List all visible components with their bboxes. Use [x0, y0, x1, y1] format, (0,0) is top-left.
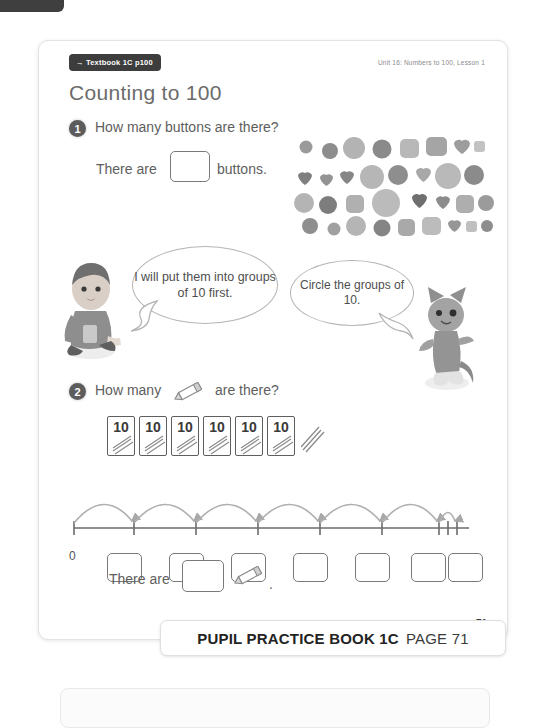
ten-card-label: 10 [268, 419, 294, 435]
bundle-pencils-icon [271, 435, 294, 455]
number-line-answer-box[interactable] [293, 553, 328, 582]
boy-speech-tail [127, 299, 161, 333]
pencil-icon [231, 563, 269, 587]
ten-card: 10 [171, 416, 199, 456]
cat-speech-text: Circle the groups of 10. [291, 278, 413, 309]
number-line-start-label: 0 [69, 549, 76, 563]
question-1-number: 1 [69, 120, 86, 137]
number-line-answer-box[interactable] [355, 553, 390, 582]
cat-speech-tail [375, 309, 415, 343]
bottom-banner: PUPIL PRACTICE BOOK 1C PAGE 71 [160, 620, 506, 656]
ten-card-label: 10 [140, 419, 166, 435]
number-line-svg [69, 481, 489, 541]
buttons-illustration [294, 133, 494, 238]
question-1-answer-prefix: There are [96, 161, 157, 177]
number-line [69, 481, 489, 541]
corner-tab-decoration [0, 0, 64, 12]
pencil-icon [171, 380, 209, 402]
question-2-prompt-before: How many [95, 382, 161, 398]
number-line-answer-box[interactable] [448, 553, 483, 582]
question-2-number: 2 [69, 383, 86, 400]
ten-card: 10 [267, 416, 295, 456]
page-title: Counting to 100 [69, 81, 222, 105]
number-line-answer-box[interactable] [411, 553, 446, 582]
banner-book-title: PUPIL PRACTICE BOOK 1C [197, 630, 399, 647]
cat-character-icon [411, 283, 481, 393]
cat-character [411, 283, 481, 397]
next-slide-preview [60, 688, 490, 728]
bundle-pencils-icon [175, 435, 198, 455]
slide-page: → Textbook 1C p100 Unit 16: Numbers to 1… [38, 40, 508, 640]
ten-card-label: 10 [236, 419, 262, 435]
question-1-answer-suffix: buttons. [217, 161, 267, 177]
loose-pencils-icon [301, 424, 325, 456]
bundle-pencils-icon [207, 435, 230, 455]
boy-character-icon [57, 253, 125, 363]
ten-card-label: 10 [204, 419, 230, 435]
question-2-prompt-after: are there? [215, 382, 279, 398]
boy-speech-text: I will put them into groups of 10 first. [133, 269, 277, 301]
ten-card: 10 [203, 416, 231, 456]
banner-page-label: PAGE 71 [406, 630, 469, 647]
bundle-pencils-icon [111, 435, 134, 455]
question-2-answer-period: . [269, 576, 273, 592]
question-1-prompt: How many buttons are there? [95, 119, 279, 135]
ten-card: 10 [235, 416, 263, 456]
textbook-reference-tag[interactable]: → Textbook 1C p100 [69, 54, 161, 71]
ten-card: 10 [107, 416, 135, 456]
buttons-cluster-icon [294, 133, 494, 238]
ten-card: 10 [139, 416, 167, 456]
question-1-answer-box[interactable] [170, 151, 210, 182]
bundle-pencils-icon [239, 435, 262, 455]
unit-lesson-label: Unit 16: Numbers to 100, Lesson 1 [378, 59, 485, 66]
question-2-answer-box[interactable] [182, 560, 224, 592]
ten-card-label: 10 [108, 419, 134, 435]
question-2-answer-prefix: There are [109, 571, 170, 587]
ten-card-label: 10 [172, 419, 198, 435]
boy-character [57, 253, 125, 367]
bundle-pencils-icon [143, 435, 166, 455]
